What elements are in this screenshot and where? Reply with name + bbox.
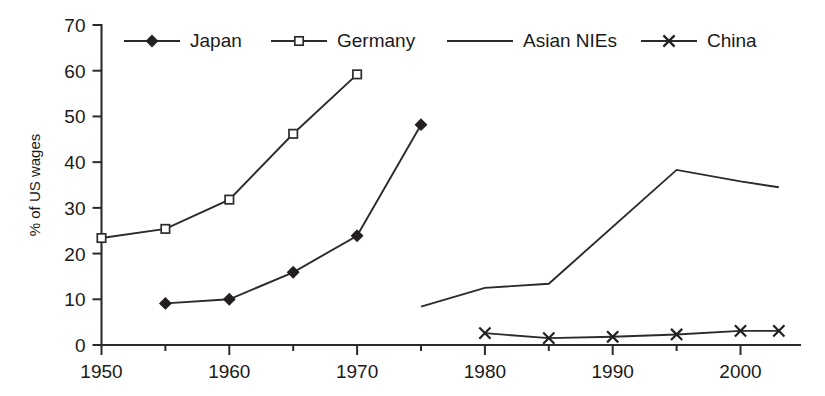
data-point-marker	[225, 195, 233, 203]
x-tick-label: 1950	[80, 361, 122, 382]
series-group	[97, 70, 784, 344]
data-point-marker	[288, 267, 299, 278]
wage-comparison-chart: 010203040506070 195019601970198019902000…	[0, 0, 825, 396]
series-asian-nies	[421, 170, 779, 307]
x-tick-label: 1990	[592, 361, 634, 382]
legend-label: China	[707, 30, 757, 51]
y-tick-label: 50	[64, 106, 85, 127]
data-point-marker	[415, 119, 426, 130]
y-axis-ticks	[93, 25, 102, 345]
chart-plot-area: 010203040506070 195019601970198019902000…	[0, 0, 825, 396]
series-line	[485, 331, 779, 338]
legend-item-germany[interactable]: Germany	[271, 30, 416, 51]
y-tick-label: 60	[64, 61, 85, 82]
y-tick-label: 30	[64, 198, 85, 219]
y-tick-label: 20	[64, 244, 85, 265]
data-point-marker	[289, 130, 297, 138]
x-axis-ticks	[102, 345, 741, 355]
y-axis-tick-labels: 010203040506070	[64, 15, 85, 356]
data-point-marker	[160, 298, 171, 309]
data-point-marker	[224, 294, 235, 305]
y-tick-label: 0	[75, 335, 86, 356]
y-axis-title: % of US wages	[26, 134, 43, 237]
x-axis-tick-labels: 195019601970198019902000	[80, 361, 761, 382]
legend-item-china[interactable]: China	[641, 30, 757, 51]
legend: JapanGermanyAsian NIEsChina	[124, 30, 757, 51]
y-tick-label: 40	[64, 152, 85, 173]
legend-item-japan[interactable]: Japan	[124, 30, 242, 51]
series-line	[421, 170, 779, 307]
legend-marker-icon	[295, 37, 303, 45]
x-tick-label: 2000	[719, 361, 761, 382]
series-china	[479, 325, 784, 344]
data-point-marker	[161, 225, 169, 233]
y-tick-label: 10	[64, 289, 85, 310]
x-tick-label: 1960	[208, 361, 250, 382]
legend-label: Japan	[190, 30, 242, 51]
data-point-marker	[97, 234, 105, 242]
x-tick-label: 1970	[336, 361, 378, 382]
legend-label: Asian NIEs	[523, 30, 617, 51]
x-tick-label: 1980	[464, 361, 506, 382]
series-germany	[97, 70, 361, 242]
legend-label: Germany	[337, 30, 416, 51]
legend-item-asian-nies[interactable]: Asian NIEs	[447, 30, 617, 51]
y-tick-label: 70	[64, 15, 85, 36]
legend-marker-icon	[146, 35, 157, 46]
series-line	[102, 74, 358, 238]
data-point-marker	[352, 230, 363, 241]
data-point-marker	[353, 70, 361, 78]
